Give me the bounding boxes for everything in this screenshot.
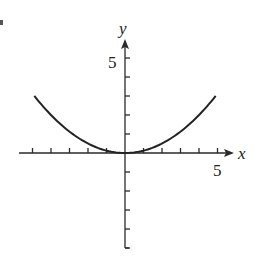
x-axis-label: x — [237, 144, 246, 163]
x-tick-label-5: 5 — [213, 161, 222, 180]
parabola-graph: x y 5 5 — [0, 0, 267, 268]
y-tick-label-5: 5 — [108, 53, 117, 72]
y-axis-label: y — [117, 19, 127, 38]
stray-mark — [0, 20, 3, 25]
axes — [19, 46, 228, 248]
